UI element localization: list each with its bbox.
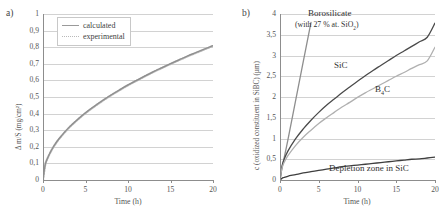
panel-b-y-axis bbox=[280, 14, 281, 180]
panel-b-x-axis-title: Time (h) bbox=[343, 198, 370, 206]
y-tick-label: 0,5 bbox=[267, 155, 277, 163]
annotation-b4c-suffix: C bbox=[384, 84, 390, 94]
x-tick-mark bbox=[280, 180, 281, 183]
legend-label-experimental: experimental bbox=[83, 33, 125, 41]
panel-b-label: b) bbox=[242, 8, 250, 18]
x-tick-label: 10 bbox=[124, 186, 132, 194]
annotation-b4c: B4C bbox=[375, 84, 390, 97]
y-tick-label: 0,7 bbox=[30, 60, 40, 68]
x-tick-mark bbox=[358, 180, 359, 183]
y-tick-label: 0 bbox=[272, 176, 276, 184]
x-tick-mark bbox=[319, 180, 320, 183]
x-tick-label: 0 bbox=[41, 186, 45, 194]
annotation-borosilicate-composition-text: (with 27 % at. SiO bbox=[295, 20, 353, 29]
legend-label-calculated: calculated bbox=[83, 22, 115, 30]
x-tick-label: 15 bbox=[392, 186, 400, 194]
line-swatch-dotted-icon bbox=[62, 36, 79, 37]
x-tick-label: 10 bbox=[354, 186, 362, 194]
y-tick-label: 0,1 bbox=[30, 160, 40, 168]
y-tick-label: 0 bbox=[35, 176, 39, 184]
y-tick-label: 0,9 bbox=[30, 27, 40, 35]
panel-a-y-axis-title: Δ m/S (mg/cm²) bbox=[16, 104, 23, 150]
panel-a: a) Δ m/S (mg/cm²) 00,10,20,30,40,50,60,7… bbox=[0, 0, 222, 219]
y-tick-label: 1,5 bbox=[267, 114, 277, 122]
x-tick-label: 5 bbox=[84, 186, 88, 194]
annotation-borosilicate-composition-end: ) bbox=[356, 20, 359, 29]
y-tick-label: 0,6 bbox=[30, 77, 40, 85]
annotation-depletion-zone: Depletion zone in SiC bbox=[329, 163, 409, 173]
panel-a-y-axis bbox=[43, 14, 44, 180]
panel-b-curves bbox=[280, 14, 435, 180]
x-tick-mark bbox=[43, 180, 44, 183]
annotation-sic: SiC bbox=[334, 60, 348, 70]
panel-a-label: a) bbox=[6, 8, 13, 18]
y-tick-label: 2 bbox=[272, 93, 276, 101]
legend-row-calculated: calculated bbox=[62, 20, 125, 31]
y-tick-label: 4 bbox=[272, 10, 276, 18]
x-tick-mark bbox=[128, 180, 129, 183]
y-tick-label: 1 bbox=[35, 10, 39, 18]
line-swatch-solid-icon bbox=[62, 25, 79, 26]
legend-row-experimental: experimental bbox=[62, 31, 125, 42]
panel-b-y-axis-title: c (oxidized constituent in SiBC) (µm) bbox=[254, 61, 261, 170]
x-tick-label: 20 bbox=[209, 186, 217, 194]
y-tick-label: 3,5 bbox=[267, 31, 277, 39]
x-tick-label: 5 bbox=[317, 186, 321, 194]
x-tick-label: 0 bbox=[278, 186, 282, 194]
y-tick-label: 0,5 bbox=[30, 93, 40, 101]
y-tick-label: 0,2 bbox=[30, 143, 40, 151]
x-tick-mark bbox=[213, 180, 214, 183]
panel-a-legend: calculated experimental bbox=[57, 17, 131, 46]
panel-b-plot-area bbox=[280, 14, 435, 180]
y-tick-label: 2,5 bbox=[267, 72, 277, 80]
x-tick-label: 20 bbox=[431, 186, 439, 194]
curve-sic bbox=[280, 23, 435, 180]
y-tick-label: 3 bbox=[272, 52, 276, 60]
x-tick-mark bbox=[86, 180, 87, 183]
panel-a-x-axis-title: Time (h) bbox=[114, 198, 141, 206]
x-tick-mark bbox=[171, 180, 172, 183]
annotation-borosilicate-composition: (with 27 % at. SiO2) bbox=[295, 21, 359, 31]
y-tick-label: 0,3 bbox=[30, 126, 40, 134]
x-tick-label: 15 bbox=[167, 186, 175, 194]
curve-borosilicate bbox=[280, 22, 311, 180]
x-tick-mark bbox=[396, 180, 397, 183]
x-tick-mark bbox=[435, 180, 436, 183]
curve-calculated bbox=[43, 46, 213, 180]
y-tick-label: 1 bbox=[272, 135, 276, 143]
figure-container: a) Δ m/S (mg/cm²) 00,10,20,30,40,50,60,7… bbox=[0, 0, 444, 219]
y-tick-label: 0,4 bbox=[30, 110, 40, 118]
curve-experimental bbox=[43, 46, 213, 180]
y-tick-label: 0,8 bbox=[30, 43, 40, 51]
annotation-borosilicate: Borosilicate bbox=[308, 8, 352, 18]
curve-b4c bbox=[280, 47, 435, 180]
panel-b: b) c (oxidized constituent in SiBC) (µm)… bbox=[222, 0, 444, 219]
